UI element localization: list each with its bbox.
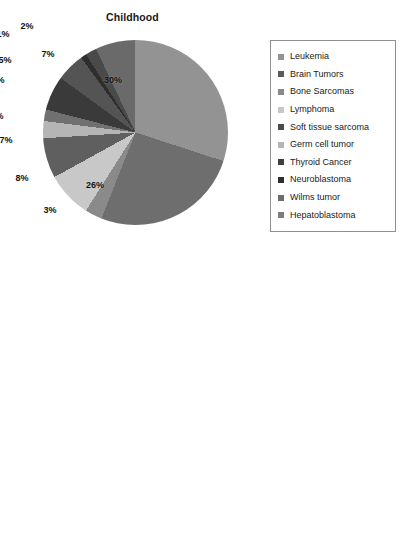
legend-swatch-icon [278,54,284,60]
legend-item-label: Wilms tumor [290,193,340,202]
legend-item[interactable]: Hepatoblastoma [278,206,387,224]
pie-slices-childhood[interactable] [43,40,228,225]
legend-childhood: LeukemiaBrain TumorsBone SarcomasLymphom… [270,40,396,232]
legend-item[interactable]: Lymphoma [278,101,387,119]
legend-item[interactable]: Neuroblastoma [278,171,387,189]
legend-item[interactable]: Soft tissue sarcoma [278,118,387,136]
legend-item-label: Thyroid Cancer [290,158,352,167]
slice-percent-label: 5% [0,55,12,65]
slice-percent-label: 7% [0,135,13,145]
slice-percent-label: 6% [0,75,5,85]
legend-item-label: Neuroblastoma [290,175,351,184]
legend-item-label: Soft tissue sarcoma [290,123,369,132]
slice-percent-label: 8% [15,173,28,183]
legend-swatch-icon [278,212,284,218]
legend-item[interactable]: Wilms tumor [278,189,387,207]
legend-swatch-icon [278,177,284,183]
legend-item-label: Leukemia [290,52,329,61]
slice-percent-label: 26% [86,180,104,190]
slice-percent-label: 3% [43,205,56,215]
slice-percent-label: 2% [20,21,33,31]
legend-swatch-icon [278,107,284,113]
legend-item-label: Germ cell tumor [290,140,354,149]
legend-swatch-icon [278,89,284,95]
legend-item[interactable]: Bone Sarcomas [278,83,387,101]
slice-percent-label: 7% [41,49,54,59]
chart-title-childhood: Childhood [106,11,159,23]
legend-swatch-icon [278,71,284,77]
legend-item[interactable]: Thyroid Cancer [278,154,387,172]
legend-item-label: Brain Tumors [290,70,344,79]
legend-swatch-icon [278,142,284,148]
legend-swatch-icon [278,195,284,201]
legend-item[interactable]: Germ cell tumor [278,136,387,154]
legend-item-label: Hepatoblastoma [290,211,356,220]
slice-percent-label: 30% [104,75,122,85]
pie-chart-childhood: 30%26%3%8%7%3%2%6%5%1%2%7% [43,40,228,225]
slice-percent-label: 1% [0,29,10,39]
legend-item[interactable]: Leukemia [278,48,387,66]
legend-item[interactable]: Brain Tumors [278,66,387,84]
legend-swatch-icon [278,159,284,165]
slice-percent-label: 3% [0,111,4,121]
chart-block-childhood: Childhood 30%26%3%8%7%3%2%6%5%1%2%7% Leu… [0,0,410,268]
chart-block-adolescents-young-adults: Adolescents & Young Adults 6%6%3%20%8%15… [0,268,410,542]
legend-swatch-icon [278,124,284,130]
legend-item-label: Bone Sarcomas [290,87,354,96]
legend-item-label: Lymphoma [290,105,334,114]
